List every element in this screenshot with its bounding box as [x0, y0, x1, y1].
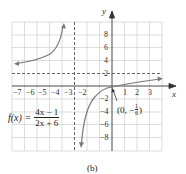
y-tick-label: −6 [100, 121, 109, 129]
y-tick-label: −8 [100, 134, 109, 142]
x-tick-label: −3 [64, 89, 73, 97]
x-tick-label: 2 [135, 89, 139, 97]
point-denominator: 6 [135, 110, 138, 116]
figure-caption: (b) [87, 163, 98, 173]
function-label: f(x) = 4x − 1 2x + 6 [8, 107, 59, 128]
y-tick-label: 2 [104, 70, 108, 78]
point-open: (0, − [117, 105, 134, 115]
curves [14, 23, 163, 148]
x-axis-label: x [172, 90, 176, 99]
x-tick-label: −5 [38, 89, 47, 97]
y-tick-label: −2 [100, 95, 109, 103]
left-branch [17, 26, 63, 64]
y-tick-label: 8 [104, 31, 108, 39]
x-tick-label: −6 [26, 89, 35, 97]
y-axis-label: y [102, 7, 106, 16]
x-tick-label: −2 [78, 89, 87, 97]
point-fraction: 1 6 [135, 103, 138, 116]
function-fraction: 4x − 1 2x + 6 [34, 107, 59, 128]
x-tick-label: 1 [123, 89, 127, 97]
function-denominator: 2x + 6 [35, 118, 58, 128]
point-annotation: (0, − 1 6 ) [117, 103, 142, 116]
y-tick-label: −4 [100, 108, 109, 116]
y-tick-label: 6 [104, 44, 108, 52]
axes [12, 11, 176, 151]
graph-canvas [0, 0, 186, 174]
y-tick-label: 4 [104, 57, 108, 65]
x-tick-label: −7 [13, 89, 22, 97]
x-tick-label: −4 [51, 89, 60, 97]
grid [12, 22, 162, 151]
function-lhs: f(x) = [8, 112, 31, 123]
point-close: ) [139, 105, 142, 115]
point-numerator: 1 [135, 103, 138, 110]
function-numerator: 4x − 1 [34, 107, 59, 118]
x-tick-label: 3 [148, 89, 152, 97]
